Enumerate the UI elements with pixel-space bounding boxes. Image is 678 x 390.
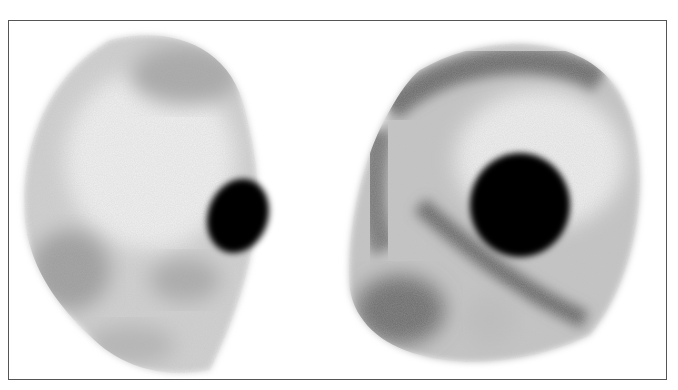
scintigraphy-image (0, 0, 678, 390)
left-skull-panel (0, 0, 340, 390)
right-hotspot (470, 153, 570, 257)
right-skull-panel (338, 0, 678, 390)
